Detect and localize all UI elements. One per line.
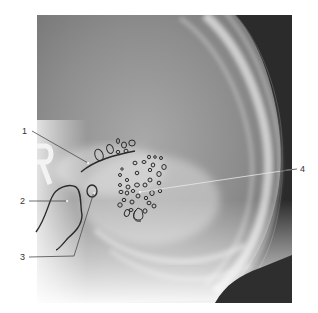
label-3: 3 bbox=[20, 253, 25, 262]
radiograph-figure: 1 2 3 4 bbox=[0, 0, 318, 313]
xray-image bbox=[0, 0, 318, 313]
label-1: 1 bbox=[22, 127, 27, 136]
label-2: 2 bbox=[20, 197, 25, 206]
label-4: 4 bbox=[300, 165, 305, 174]
